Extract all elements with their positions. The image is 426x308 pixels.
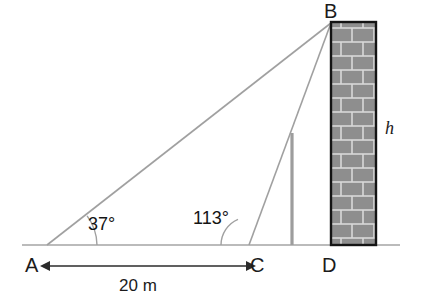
geometry-diagram: A B C D 37° 113° 20 m h [0, 0, 426, 308]
brick-wall [331, 22, 376, 245]
vertex-label-b: B [324, 1, 337, 21]
diagram-canvas [0, 0, 426, 308]
height-label-h: h [385, 119, 394, 137]
vertex-label-c: C [250, 255, 264, 275]
segment-cb [249, 23, 331, 245]
dimension-label-ac: 20 m [119, 277, 157, 294]
angle-label-a: 37° [88, 215, 115, 233]
vertex-label-a: A [25, 255, 38, 275]
vertex-label-d: D [322, 255, 336, 275]
angle-label-c: 113° [193, 209, 229, 227]
segment-ab [47, 23, 331, 245]
